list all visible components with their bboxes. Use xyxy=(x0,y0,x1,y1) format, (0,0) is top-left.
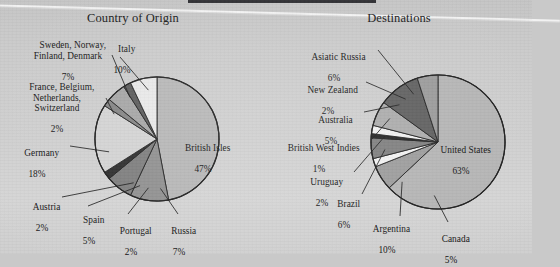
pie-label-portugal: Portugal 2% xyxy=(104,216,158,267)
pie-label-canada: Canada 5% xyxy=(424,224,478,267)
pie-label-austria-text: Austria xyxy=(33,202,61,212)
pie-label-united-states: United States 63% xyxy=(416,135,506,197)
pie-label-australia-text: Australia xyxy=(318,115,353,125)
pie-label-germany-text: Germany xyxy=(24,148,59,158)
pie-label-united-states-text: United States xyxy=(441,145,492,155)
pie-label-spain-text: Spain xyxy=(83,215,104,225)
chart-panel-country-of-origin: Country of Origin Sweden, Norway,Finland… xyxy=(0,0,266,254)
pie-label-new-zealand-text: New Zealand xyxy=(308,85,358,95)
pie-label-austria: Austria 2% xyxy=(16,192,68,254)
pie-label-low-countries-text: France, Belgium,Netherlands,Switzerland xyxy=(29,82,94,113)
pie-label-british-isles: British Isles 47% xyxy=(168,133,238,195)
chart-panel-destinations: Destinations Asiatic Russia 6% New Zeala… xyxy=(266,0,532,254)
pie-label-russia: Russia 7% xyxy=(156,216,202,267)
pie-label-argentina-percent: 10% xyxy=(350,245,424,255)
pie-leader-line xyxy=(378,50,414,94)
pie-label-british-isles-percent: 47% xyxy=(168,164,238,174)
pie-label-italy-text: Italy xyxy=(118,44,135,54)
pie-label-united-states-percent: 63% xyxy=(416,166,506,176)
pie-label-portugal-text: Portugal xyxy=(120,226,152,236)
pie-label-argentina-text: Argentina xyxy=(373,224,410,234)
pie-label-portugal-percent: 2% xyxy=(104,247,158,257)
pie-label-british-isles-text: British Isles xyxy=(185,143,230,153)
pie-label-russia-text: Russia xyxy=(171,226,196,236)
pie-label-british-west-indies-text: British West Indies xyxy=(288,143,360,153)
pie-label-argentina: Argentina 10% xyxy=(350,214,424,267)
pie-label-germany-percent: 18% xyxy=(6,169,68,179)
pie-label-brazil-text: Brazil xyxy=(337,199,360,209)
pie-label-scandinavia-text: Sweden, Norway,Finland, Denmark xyxy=(34,40,106,60)
pie-label-russia-percent: 7% xyxy=(156,247,202,257)
pie-label-asiatic-russia-text: Asiatic Russia xyxy=(311,52,365,62)
pie-label-uruguay-text: Uruguay xyxy=(310,177,343,187)
pie-label-canada-percent: 5% xyxy=(424,255,478,265)
pie-label-canada-text: Canada xyxy=(442,234,470,244)
pie-label-low-countries-percent: 2% xyxy=(2,124,112,134)
pie-label-austria-percent: 2% xyxy=(16,223,68,233)
